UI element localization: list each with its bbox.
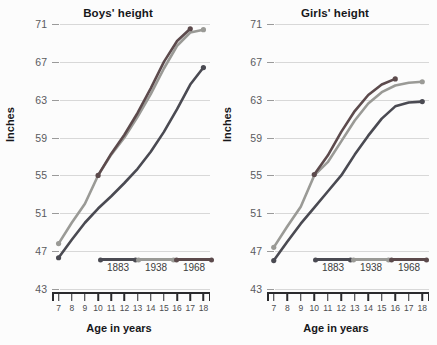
x-tick-mark: [314, 292, 316, 301]
y-tick-label: 47: [35, 246, 47, 257]
series-layer-boys: [52, 24, 210, 289]
x-tick-label: 10: [310, 304, 319, 313]
y-tick-label: 51: [35, 208, 47, 219]
y-tick-label: 63: [250, 94, 262, 105]
y-tick-label: 59: [35, 132, 47, 143]
legend-swatch-icon: [352, 258, 390, 261]
legend-swatch-icon: [137, 258, 175, 261]
legend-label: 1968: [174, 262, 214, 273]
y-tick-label: 71: [35, 19, 47, 30]
y-tick-label: 55: [250, 170, 262, 181]
legend-item-1883[interactable]: 1883: [98, 258, 138, 273]
x-tick-mark: [422, 292, 424, 301]
series-endpoint-1883: [201, 65, 206, 70]
gridline: [275, 289, 429, 290]
x-tick-label: 7: [271, 304, 276, 313]
y-tick-label: 67: [250, 57, 262, 68]
x-tick-mark: [395, 292, 397, 301]
series-line-1968: [314, 79, 395, 175]
y-tick-label: 43: [35, 284, 47, 295]
x-tick-label: 11: [323, 304, 332, 313]
x-tick-label: 12: [120, 304, 129, 313]
legend-item-1938[interactable]: 1938: [351, 258, 391, 273]
panel-title: Boys' height: [0, 7, 218, 19]
axis-cap-right: [209, 292, 211, 301]
x-tick-mark: [341, 292, 343, 301]
gridline: [60, 289, 210, 290]
x-tick-label: 11: [107, 304, 116, 313]
legend-boys: 188319381968: [52, 258, 210, 284]
y-tick-label: 55: [35, 170, 47, 181]
x-tick-mark: [97, 292, 99, 301]
x-tick-label: 9: [83, 304, 88, 313]
x-tick-mark: [71, 292, 73, 301]
x-tick-mark: [408, 292, 410, 301]
series-endpoint-1938: [201, 27, 206, 32]
axis-cap-left: [52, 292, 54, 301]
legend-swatch-icon: [99, 258, 137, 261]
x-tick-mark: [84, 292, 86, 301]
x-tick-mark: [354, 292, 356, 301]
x-tick-mark: [163, 292, 165, 301]
series-endpoint-1938: [420, 79, 425, 84]
legend-swatch-icon: [175, 258, 213, 261]
x-axis-girls: 789101112131415161718: [267, 292, 429, 306]
legend-item-1938[interactable]: 1938: [136, 258, 176, 273]
legend-swatch-icon: [390, 258, 428, 261]
x-tick-label: 8: [69, 304, 74, 313]
series-endpoint-1938: [271, 245, 276, 250]
x-tick-mark: [287, 292, 289, 301]
x-tick-mark: [381, 292, 383, 301]
legend-item-1968[interactable]: 1968: [389, 258, 429, 273]
legend-label: 1968: [389, 262, 429, 273]
x-tick-mark: [150, 292, 152, 301]
x-tick-label: 15: [159, 304, 168, 313]
x-tick-mark: [58, 292, 60, 301]
x-tick-label: 10: [93, 304, 102, 313]
series-endpoint-1968: [312, 172, 317, 177]
y-tick-label: 67: [35, 57, 47, 68]
x-tick-mark: [124, 292, 126, 301]
x-tick-label: 13: [133, 304, 142, 313]
legend-label: 1883: [98, 262, 138, 273]
chart-figure: Boys' height Inches 7167635955514743 188…: [0, 0, 437, 345]
legend-girls: 188319381968: [267, 258, 429, 284]
x-axis-label: Age in years: [0, 322, 218, 334]
x-tick-label: 14: [364, 304, 373, 313]
legend-item-1883[interactable]: 1883: [313, 258, 353, 273]
plot-area-girls: 7167635955514743: [267, 24, 429, 289]
series-line-1968: [98, 29, 190, 176]
x-tick-mark: [137, 292, 139, 301]
x-tick-mark: [300, 292, 302, 301]
series-endpoint-1938: [56, 241, 61, 246]
panel-boys-height: Boys' height Inches 7167635955514743 188…: [0, 0, 218, 345]
x-tick-label: 9: [298, 304, 303, 313]
x-tick-label: 15: [377, 304, 386, 313]
axis-cap-right: [428, 292, 430, 301]
x-tick-label: 17: [404, 304, 413, 313]
x-axis-label: Age in years: [219, 322, 437, 334]
series-endpoint-1968: [393, 76, 398, 81]
series-endpoint-1968: [95, 173, 100, 178]
x-tick-mark: [273, 292, 275, 301]
x-tick-mark: [111, 292, 113, 301]
y-tick-mark: [52, 289, 59, 290]
legend-label: 1883: [313, 262, 353, 273]
x-tick-label: 16: [391, 304, 400, 313]
x-tick-label: 7: [56, 304, 61, 313]
legend-label: 1938: [351, 262, 391, 273]
x-tick-label: 18: [199, 304, 208, 313]
x-tick-label: 13: [350, 304, 359, 313]
x-axis-boys: 789101112131415161718: [52, 292, 210, 306]
x-tick-label: 8: [285, 304, 290, 313]
axis-cap-left: [267, 292, 269, 301]
legend-label: 1938: [136, 262, 176, 273]
y-tick-label: 47: [250, 246, 262, 257]
legend-item-1968[interactable]: 1968: [174, 258, 214, 273]
plot-area-boys: 7167635955514743: [52, 24, 210, 289]
series-line-1883: [59, 68, 204, 258]
y-tick-label: 71: [250, 19, 262, 30]
y-tick-mark: [267, 289, 274, 290]
axis-baseline: [52, 292, 210, 294]
legend-swatch-icon: [314, 258, 352, 261]
